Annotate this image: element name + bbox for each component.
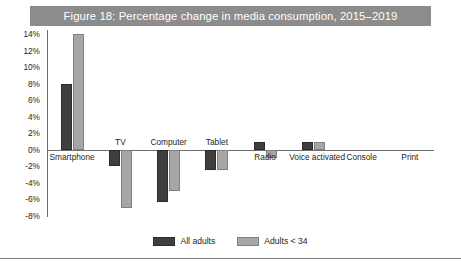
figure-title-bar: Figure 18: Percentage change in media co… bbox=[30, 6, 431, 26]
legend-label: Adults < 34 bbox=[264, 236, 307, 246]
y-axis-tick: 2% bbox=[0, 128, 40, 138]
bar-adults-under-34 bbox=[217, 150, 228, 171]
x-axis-category-label: Console bbox=[338, 153, 386, 162]
bar-all-adults bbox=[205, 150, 216, 171]
bar-adults-under-34 bbox=[169, 150, 180, 191]
bar-all-adults bbox=[302, 142, 313, 150]
y-axis-tick: 10% bbox=[0, 62, 40, 72]
y-axis-tick: 4% bbox=[0, 112, 40, 122]
x-axis-category-label: Voice activated bbox=[289, 153, 337, 162]
y-axis-tick: -8% bbox=[0, 211, 40, 221]
y-axis-tick-labels: 14%12%10%8%6%4%2%0%-2%-4%-6%-8% bbox=[0, 28, 46, 228]
y-axis-tick: 0% bbox=[0, 145, 40, 155]
x-axis-category-label: Radio bbox=[241, 153, 289, 162]
legend-item[interactable]: All adults bbox=[153, 236, 215, 246]
light-swatch-icon bbox=[237, 237, 259, 246]
y-axis-tick: 14% bbox=[0, 29, 40, 39]
x-axis-category-label: Tablet bbox=[193, 138, 241, 147]
bars-area: SmartphoneTVComputerTabletRadioVoice act… bbox=[48, 28, 461, 228]
chart-legend: All adultsAdults < 34 bbox=[0, 236, 461, 246]
bar-all-adults bbox=[254, 142, 265, 150]
legend-label: All adults bbox=[180, 236, 215, 246]
x-axis-category-label: Print bbox=[386, 153, 434, 162]
bar-all-adults bbox=[157, 150, 168, 202]
x-axis-category-label: TV bbox=[96, 138, 144, 147]
bar-adults-under-34 bbox=[121, 150, 132, 208]
y-axis-tick: 12% bbox=[0, 46, 40, 56]
bar-adults-under-34 bbox=[314, 142, 325, 150]
bar-group: Tablet bbox=[193, 28, 241, 228]
y-axis-tick: -4% bbox=[0, 178, 40, 188]
bar-group: Smartphone bbox=[48, 28, 96, 228]
bar-all-adults bbox=[109, 150, 120, 167]
bar-group: Print bbox=[386, 28, 434, 228]
bar-all-adults bbox=[61, 84, 72, 150]
bar-group: Console bbox=[338, 28, 386, 228]
dark-swatch-icon bbox=[153, 237, 175, 246]
bar-group: Radio bbox=[241, 28, 289, 228]
bar-group: Voice activated bbox=[289, 28, 337, 228]
footer-rule bbox=[0, 258, 461, 259]
x-axis-category-label: Smartphone bbox=[48, 153, 96, 162]
legend-item[interactable]: Adults < 34 bbox=[237, 236, 307, 246]
chart-plot-area: 14%12%10%8%6%4%2%0%-2%-4%-6%-8% Smartpho… bbox=[0, 28, 461, 228]
page-title: Figure 18: Percentage change in media co… bbox=[64, 10, 398, 22]
y-axis-tick: 6% bbox=[0, 95, 40, 105]
y-axis-tick: -2% bbox=[0, 161, 40, 171]
y-axis-tick: -6% bbox=[0, 194, 40, 204]
bar-group: TV bbox=[96, 28, 144, 228]
bar-group: Computer bbox=[145, 28, 193, 228]
x-axis-category-label: Computer bbox=[145, 138, 193, 147]
bar-adults-under-34 bbox=[73, 34, 84, 150]
y-axis-tick: 8% bbox=[0, 79, 40, 89]
figure-container: Figure 18: Percentage change in media co… bbox=[0, 0, 461, 267]
